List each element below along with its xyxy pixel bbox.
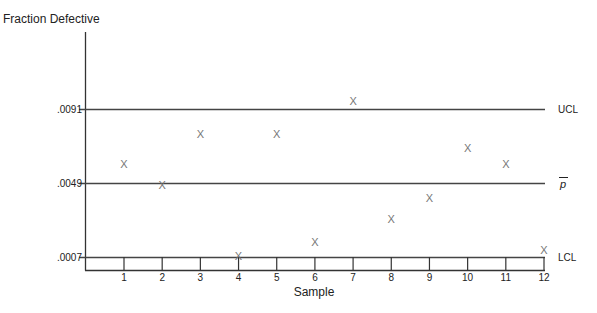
data-point-marker: X bbox=[426, 192, 434, 204]
data-point-marker: X bbox=[197, 128, 205, 140]
x-tick-label: 8 bbox=[388, 272, 394, 283]
lcl-value-label: .0007 bbox=[57, 252, 82, 263]
x-tick-label: 3 bbox=[198, 272, 204, 283]
pbar-label: p bbox=[559, 178, 568, 191]
x-tick-label: 6 bbox=[312, 272, 318, 283]
data-point-marker: X bbox=[349, 95, 357, 107]
data-point-marker: X bbox=[464, 142, 472, 154]
x-tick-label: 7 bbox=[350, 272, 356, 283]
x-tick-label: 2 bbox=[159, 272, 165, 283]
control-chart: Fraction Defective .0091 .0049 .0007 UCL… bbox=[0, 0, 597, 313]
data-point-marker: X bbox=[502, 158, 510, 170]
data-point-marker: X bbox=[273, 128, 281, 140]
ucl-value-label: .0091 bbox=[57, 104, 82, 115]
x-tick-label: 1 bbox=[121, 272, 127, 283]
x-tick-label: 4 bbox=[236, 272, 242, 283]
x-tick-label: 5 bbox=[274, 272, 280, 283]
y-axis-title: Fraction Defective bbox=[3, 12, 100, 26]
ucl-label: UCL bbox=[558, 104, 578, 115]
pbar-value-label: .0049 bbox=[57, 178, 82, 189]
data-point-marker: X bbox=[159, 179, 167, 191]
data-point-marker: X bbox=[388, 213, 396, 225]
lcl-label: LCL bbox=[558, 252, 577, 263]
data-point-marker: X bbox=[120, 158, 128, 170]
x-tick-label: 12 bbox=[538, 272, 550, 283]
data-point-marker: X bbox=[540, 244, 548, 256]
data-markers: XXXXXXXXXXXX bbox=[120, 95, 548, 262]
data-point-marker: X bbox=[235, 250, 243, 262]
data-point-marker: X bbox=[311, 236, 319, 248]
x-tick-label: 9 bbox=[427, 272, 433, 283]
pbar-symbol: p bbox=[559, 178, 566, 190]
x-axis-title: Sample bbox=[294, 285, 335, 299]
x-tick-label: 10 bbox=[462, 272, 474, 283]
x-tick-label: 11 bbox=[501, 272, 512, 283]
